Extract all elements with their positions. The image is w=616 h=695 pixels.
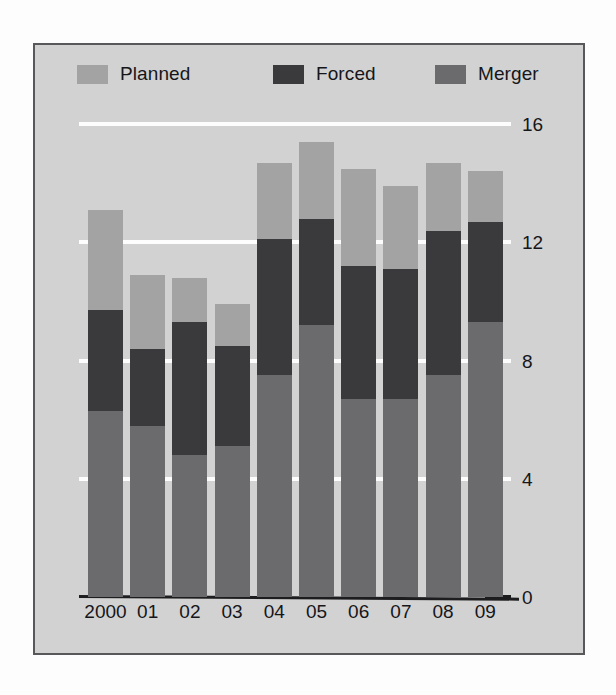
bar-segment-merger-08 — [426, 375, 461, 597]
bar-segment-merger-07 — [383, 399, 418, 597]
bar-segment-planned-09 — [468, 171, 503, 221]
x-tick-label-2000: 2000 — [84, 601, 126, 623]
bar-segment-merger-04 — [257, 375, 292, 597]
bar-09[interactable] — [468, 171, 503, 597]
bar-segment-merger-05 — [299, 325, 334, 597]
x-tick-label-09: 09 — [475, 601, 496, 623]
bar-segment-planned-01 — [130, 275, 165, 349]
y-tick-label-12: 12 — [522, 233, 543, 252]
y-tick-label-8: 8 — [522, 351, 533, 370]
bar-segment-forced-03 — [215, 346, 250, 446]
y-tick-label-4: 4 — [522, 469, 533, 488]
bar-segment-planned-07 — [383, 186, 418, 269]
bar-segment-forced-02 — [172, 322, 207, 455]
bar-segment-merger-06 — [341, 399, 376, 597]
bar-segment-merger-2000 — [88, 411, 123, 597]
bar-segment-merger-03 — [215, 446, 250, 597]
bar-08[interactable] — [426, 163, 461, 597]
bar-01[interactable] — [130, 275, 165, 597]
bar-segment-forced-05 — [299, 219, 334, 325]
x-tick-label-01: 01 — [137, 601, 158, 623]
bar-02[interactable] — [172, 278, 207, 597]
bar-segment-planned-06 — [341, 169, 376, 267]
x-tick-label-08: 08 — [433, 601, 454, 623]
x-tick-label-07: 07 — [390, 601, 411, 623]
bar-07[interactable] — [383, 186, 418, 597]
chart-panel: Planned Forced Merger 0481216 2000010203… — [33, 43, 585, 655]
bar-segment-forced-2000 — [88, 310, 123, 410]
bar-04[interactable] — [257, 163, 292, 597]
bar-segment-planned-02 — [172, 278, 207, 322]
bar-segment-forced-01 — [130, 349, 165, 426]
x-tick-label-05: 05 — [306, 601, 327, 623]
bar-segment-planned-2000 — [88, 210, 123, 310]
bar-segment-planned-05 — [299, 142, 334, 219]
bar-segment-forced-04 — [257, 239, 292, 375]
bar-05[interactable] — [299, 142, 334, 597]
bar-segment-forced-09 — [468, 222, 503, 322]
bar-segment-planned-03 — [215, 304, 250, 345]
page-background: Planned Forced Merger 0481216 2000010203… — [0, 0, 616, 695]
bar-segment-forced-08 — [426, 231, 461, 376]
y-tick-label-16: 16 — [522, 115, 543, 134]
x-tick-label-06: 06 — [348, 601, 369, 623]
bar-2000[interactable] — [88, 210, 123, 597]
bar-segment-merger-02 — [172, 455, 207, 597]
y-tick-label-0: 0 — [522, 588, 533, 607]
bar-segment-planned-04 — [257, 163, 292, 240]
bar-segment-merger-01 — [130, 426, 165, 597]
bar-segment-forced-07 — [383, 269, 418, 399]
x-tick-label-04: 04 — [264, 601, 285, 623]
bar-06[interactable] — [341, 169, 376, 597]
bar-03[interactable] — [215, 304, 250, 597]
x-tick-label-03: 03 — [222, 601, 243, 623]
y-tick-stub-16 — [485, 122, 511, 126]
gridline-16 — [79, 122, 511, 126]
bar-segment-planned-08 — [426, 163, 461, 231]
bar-segment-merger-09 — [468, 322, 503, 597]
bar-segment-forced-06 — [341, 266, 376, 399]
x-tick-label-02: 02 — [179, 601, 200, 623]
plot-area: 0481216 2000010203040506070809 — [35, 45, 587, 657]
